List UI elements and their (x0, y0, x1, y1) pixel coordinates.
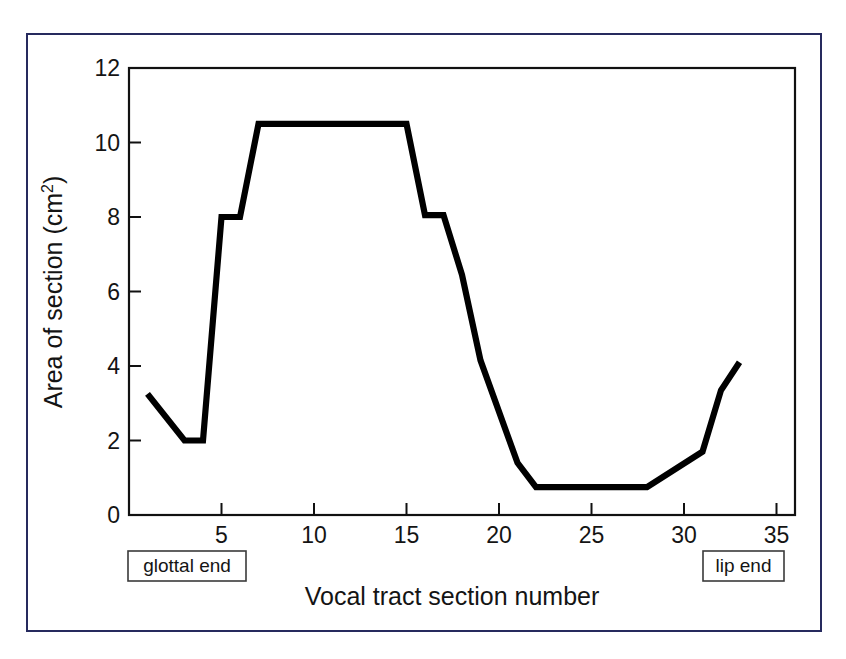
y-axis-title: Area of section (cm2) (39, 176, 67, 409)
area-function-line (148, 124, 740, 487)
plot-area-frame (129, 68, 795, 515)
figure-root: 0 2 4 6 8 10 12 5 10 15 20 25 30 35 (0, 0, 846, 659)
y-tick-label-0: 0 (107, 502, 120, 528)
glottal-end-label: glottal end (143, 555, 231, 576)
y-axis-title-superscript: 2 (39, 184, 56, 193)
y-axis-ticks (129, 68, 141, 515)
x-axis-title: Vocal tract section number (305, 582, 600, 610)
glottal-end-annotation: glottal end (128, 551, 246, 581)
y-axis-title-base: Area of section (cm (39, 193, 67, 408)
svg-text:Area of section (cm2): Area of section (cm2) (39, 176, 67, 409)
x-tick-label-15: 15 (394, 522, 420, 548)
y-tick-label-12: 12 (94, 55, 120, 81)
y-tick-label-2: 2 (107, 428, 120, 454)
x-axis-tick-labels: 5 10 15 20 25 30 35 (215, 522, 789, 548)
y-tick-label-8: 8 (107, 204, 120, 230)
y-tick-label-6: 6 (107, 279, 120, 305)
x-tick-label-35: 35 (764, 522, 790, 548)
y-axis-title-close: ) (39, 176, 67, 184)
y-axis-tick-labels: 0 2 4 6 8 10 12 (94, 55, 120, 528)
x-axis-ticks (222, 503, 777, 515)
x-tick-label-10: 10 (301, 522, 327, 548)
x-tick-label-5: 5 (215, 522, 228, 548)
lip-end-label: lip end (716, 555, 772, 576)
x-tick-label-30: 30 (671, 522, 697, 548)
x-tick-label-25: 25 (579, 522, 605, 548)
vocal-tract-area-chart: 0 2 4 6 8 10 12 5 10 15 20 25 30 35 (0, 0, 846, 659)
y-tick-label-10: 10 (94, 130, 120, 156)
x-tick-label-20: 20 (486, 522, 512, 548)
lip-end-annotation: lip end (703, 551, 784, 581)
y-tick-label-4: 4 (107, 353, 120, 379)
